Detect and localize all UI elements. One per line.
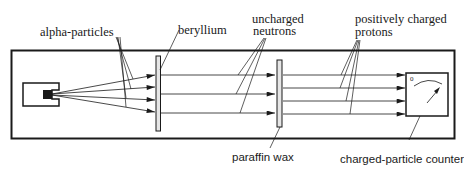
label-alpha-particles: alpha-particles <box>40 26 114 38</box>
counter-leader <box>409 116 420 140</box>
neutron-rays <box>161 75 275 113</box>
paraffin-plate <box>277 60 282 127</box>
label-counter: charged-particle counter <box>340 153 464 165</box>
beryllium-plate <box>156 56 161 131</box>
label-neutrons: neutrons <box>253 25 296 37</box>
proton-rays <box>283 75 405 114</box>
alpha-rays <box>52 75 155 112</box>
counter-scale-zero: 0 <box>410 76 414 83</box>
label-protons: protons <box>355 26 393 38</box>
label-beryllium: beryllium <box>178 24 227 36</box>
alpha-leader-lines <box>116 37 133 107</box>
alpha-source <box>23 83 59 106</box>
label-paraffin-wax: paraffin wax <box>232 151 294 163</box>
enclosure-box <box>12 51 455 139</box>
neutron-leader-lines <box>236 38 266 113</box>
label-positively-charged: positively charged <box>355 13 447 25</box>
